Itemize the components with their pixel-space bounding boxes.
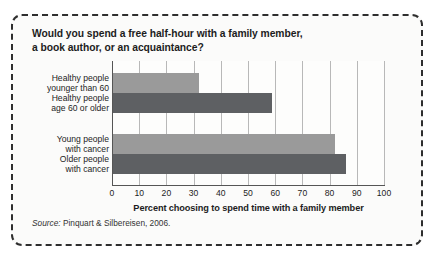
x-tick-80: 80: [325, 188, 335, 198]
x-axis-title: Percent choosing to spend time with a fa…: [112, 203, 385, 213]
bar-3: [112, 154, 346, 174]
x-tick-100: 100: [377, 188, 391, 198]
category-label-2: Young peoplewith cancer: [17, 134, 109, 155]
category-label-line: Older people: [17, 154, 109, 164]
figure-panel: Would you spend a free half-hour with a …: [11, 14, 423, 246]
x-tick-30: 30: [189, 188, 199, 198]
category-label-line: Healthy people: [17, 93, 109, 103]
category-label-line: with cancer: [17, 164, 109, 174]
category-label-line: age 60 or older: [17, 103, 109, 113]
x-tick-20: 20: [162, 188, 172, 198]
x-tick-50: 50: [243, 188, 253, 198]
plot-wrapper: Healthy peopleyounger than 60Healthy peo…: [13, 61, 425, 206]
category-label-line: Healthy people: [17, 73, 109, 83]
y-axis-line: [112, 61, 113, 186]
x-tick-70: 70: [298, 188, 308, 198]
x-tick-90: 90: [352, 188, 362, 198]
chart-title-line-1: Would you spend a free half-hour with a …: [32, 27, 382, 41]
bar-1: [112, 93, 272, 113]
category-axis-labels: Healthy peopleyounger than 60Healthy peo…: [17, 61, 109, 185]
source-citation: Pinquart & Silbereisen, 2006.: [61, 218, 171, 228]
gridline-90: [357, 61, 358, 185]
plot-area: [112, 61, 384, 185]
category-label-1: Healthy peopleage 60 or older: [17, 93, 109, 114]
category-label-3: Older peoplewith cancer: [17, 154, 109, 175]
category-label-line: Young people: [17, 134, 109, 144]
x-tick-0: 0: [110, 188, 115, 198]
gridline-100: [384, 61, 385, 185]
x-tick-40: 40: [216, 188, 226, 198]
x-axis-line: [112, 185, 385, 186]
source-prefix: Source:: [32, 218, 61, 228]
x-tick-10: 10: [134, 188, 144, 198]
bar-0: [112, 73, 199, 93]
bar-2: [112, 134, 335, 154]
x-axis-tick-labels: 0102030405060708090100: [112, 188, 384, 200]
chart-title-line-2: a book author, or an acquaintance?: [32, 41, 382, 55]
x-tick-60: 60: [270, 188, 280, 198]
source-note: Source: Pinquart & Silbereisen, 2006.: [32, 218, 170, 228]
category-label-0: Healthy peopleyounger than 60: [17, 73, 109, 94]
chart-title: Would you spend a free half-hour with a …: [32, 27, 382, 55]
